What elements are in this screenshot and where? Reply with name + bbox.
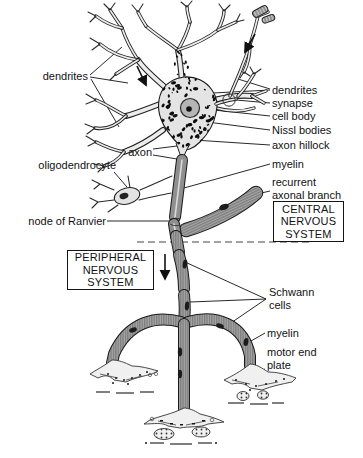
- central-nervous-system-box: CENTRAL NERVOUS SYSTEM: [273, 201, 344, 242]
- label-myelin-upper: myelin: [272, 158, 304, 171]
- cell-body: [156, 50, 220, 162]
- neuron-diagram: dendrites axon oligodendrocyte node of R…: [0, 0, 363, 458]
- label-schwann-cells: Schwann cells: [269, 286, 314, 312]
- label-recurrent-axonal-branch: recurrent axonal branch: [272, 176, 341, 202]
- label-myelin-lower: myelin: [267, 327, 299, 340]
- label-cell-body: cell body: [272, 110, 315, 123]
- nucleolus: [186, 106, 192, 112]
- label-oligodendrocyte: oligodendrocyte: [24, 159, 116, 172]
- oligodendrocyte-cell: [90, 176, 172, 212]
- label-axon-hillock: axon hillock: [272, 139, 329, 152]
- label-synapse: synapse: [272, 97, 313, 110]
- label-dendrites-left: dendrites: [18, 70, 88, 83]
- label-motor-end-plate: motor end plate: [267, 346, 317, 372]
- motor-end-plate-left: [90, 360, 158, 393]
- motor-end-plate-center: [144, 408, 224, 444]
- recurrent-axonal-branch: [186, 193, 256, 230]
- label-node-of-ranvier: node of Ranvier: [18, 215, 106, 228]
- axon-cns-myelin: [170, 160, 182, 236]
- label-dendrites-right: dendrites: [272, 84, 317, 97]
- label-nissl-bodies: Nissl bodies: [272, 124, 331, 137]
- label-axon: axon: [118, 146, 152, 159]
- peripheral-nervous-system-box: PERIPHERAL NERVOUS SYSTEM: [67, 250, 154, 290]
- incoming-axon: [230, 5, 276, 96]
